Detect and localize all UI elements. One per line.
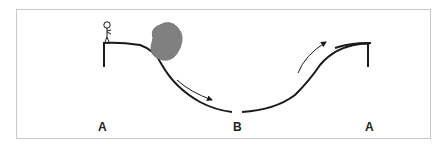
label-a-right: A: [365, 120, 374, 134]
up-arrow-icon: [298, 42, 326, 73]
boulder-icon: [151, 23, 182, 61]
stick-figure-icon: [104, 22, 111, 42]
diagram-canvas: [0, 0, 447, 145]
label-b-middle: B: [233, 120, 242, 134]
label-a-left: A: [98, 120, 107, 134]
right-track: [242, 43, 370, 112]
